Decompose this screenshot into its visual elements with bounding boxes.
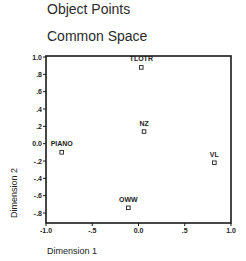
data-points: TLOTRNZPIANOVLOWW (51, 55, 220, 209)
point-label: TLOTR (130, 55, 153, 62)
x-tick-label: 0.0 (134, 227, 144, 234)
y-axis-title: Dimension 2 (9, 168, 19, 218)
plot-frame (46, 56, 231, 223)
data-point-vl: VL (210, 151, 220, 165)
x-axis-title: Dimension 1 (47, 246, 97, 256)
scatter-plot: 1.0.8.6.4.20.0-.2-.4-.6-.8-1.0-.50.0.51.… (0, 0, 246, 261)
point-label: OWW (119, 196, 138, 203)
data-point-piano: PIANO (51, 140, 74, 154)
y-tick-label: .8 (36, 71, 42, 78)
x-tick-label: .5 (182, 227, 188, 234)
x-tick-label: 1.0 (226, 227, 236, 234)
y-tick-label: -.4 (34, 175, 42, 182)
y-tick-label: -.6 (34, 192, 42, 199)
point-marker (139, 66, 143, 70)
point-label: VL (210, 151, 220, 158)
point-label: PIANO (51, 140, 74, 147)
y-tick-label: 0.0 (32, 140, 42, 147)
point-marker (142, 130, 146, 134)
y-tick-label: 1.0 (32, 54, 42, 61)
point-marker (213, 161, 217, 165)
y-tick-label: -.8 (34, 210, 42, 217)
x-tick-label: -.5 (88, 227, 96, 234)
y-tick-label: -.2 (34, 158, 42, 165)
y-tick-label: .6 (36, 88, 42, 95)
data-point-tlotr: TLOTR (130, 55, 153, 69)
y-tick-label: .4 (36, 106, 42, 113)
point-label: NZ (139, 120, 149, 127)
data-point-nz: NZ (139, 120, 149, 134)
point-marker (60, 151, 64, 155)
y-tick-label: .2 (36, 123, 42, 130)
data-point-oww: OWW (119, 196, 138, 210)
x-tick-label: -1.0 (40, 227, 52, 234)
point-marker (127, 206, 131, 210)
